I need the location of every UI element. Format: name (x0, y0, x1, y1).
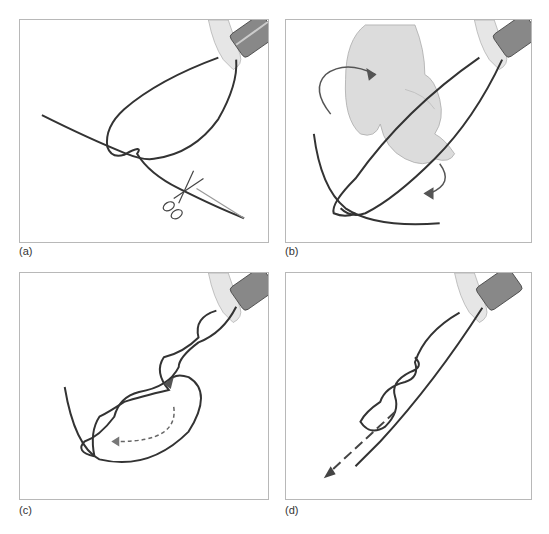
panel-b-label: (b) (285, 245, 298, 257)
suture-icon (355, 308, 482, 467)
panel-d (285, 272, 532, 500)
direction-arrow-icon (111, 377, 174, 446)
panel-c-illustration (20, 273, 268, 499)
panel-c (19, 272, 269, 500)
panel-a-illustration (20, 20, 268, 242)
needle-holder-icon (208, 20, 268, 70)
panel-b (285, 19, 532, 243)
needle-holder-icon (455, 273, 524, 323)
panel-b-illustration (286, 20, 531, 242)
panel-a-label: (a) (19, 245, 32, 257)
panel-d-illustration (286, 273, 531, 499)
needle-holder-icon (474, 20, 531, 70)
panel-a (19, 19, 269, 243)
panel-d-label: (d) (285, 504, 298, 516)
panel-c-label: (c) (19, 504, 32, 516)
needle-holder-icon (208, 273, 268, 323)
hand-icon (345, 25, 454, 164)
suture-icon (42, 58, 244, 219)
